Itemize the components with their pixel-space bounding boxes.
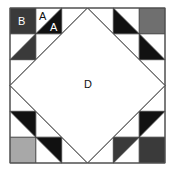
label-a-bottom: A (50, 21, 58, 33)
square-gray-tr (139, 8, 165, 34)
label-d: D (84, 78, 92, 90)
label-a-top: A (39, 10, 47, 22)
square-dark-br (139, 137, 165, 163)
quilt-block-diagram: B A A D (0, 0, 175, 170)
square-lightgray-bl (10, 137, 36, 163)
label-b: B (18, 15, 25, 27)
